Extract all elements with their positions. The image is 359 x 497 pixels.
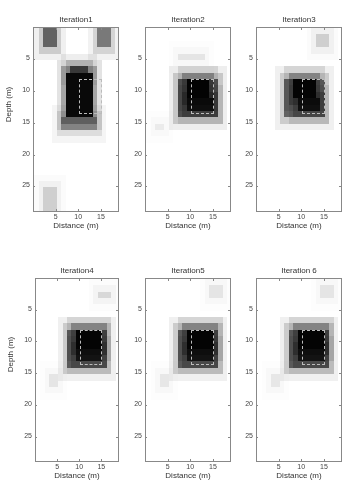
x-tick [168, 209, 169, 211]
y-tick [145, 437, 147, 438]
y-tick-label: 25 [128, 181, 142, 188]
x-tick-label: 15 [206, 463, 220, 470]
y-tick [35, 437, 37, 438]
intensity-cell [61, 117, 97, 130]
y-tick [33, 186, 35, 187]
x-axis-label: Distance (m) [145, 471, 231, 480]
x-tick-label: 10 [71, 213, 85, 220]
y-tick [339, 437, 341, 438]
target-outline [302, 79, 325, 114]
y-tick [228, 310, 230, 311]
intensity-cell [155, 124, 164, 130]
x-axis-label: Distance (m) [256, 221, 342, 230]
y-tick [228, 155, 230, 156]
x-tick [301, 28, 302, 30]
intensity-cell [209, 285, 223, 298]
x-tick [56, 28, 57, 30]
y-tick [116, 155, 118, 156]
y-tick-label: 10 [239, 336, 253, 343]
x-tick [301, 459, 302, 461]
y-tick [256, 373, 258, 374]
y-tick [116, 373, 118, 374]
y-tick [339, 91, 341, 92]
y-tick-label: 10 [128, 336, 142, 343]
panel-title: Iteration5 [145, 266, 231, 275]
y-tick [339, 310, 341, 311]
intensity-cell [49, 374, 58, 387]
y-tick-label: 15 [128, 118, 142, 125]
heatmap-plot [145, 27, 231, 212]
x-tick [279, 459, 280, 461]
y-tick-label: 10 [18, 336, 32, 343]
x-tick [324, 279, 325, 281]
x-tick [168, 459, 169, 461]
x-tick [190, 28, 191, 30]
y-tick [339, 123, 341, 124]
y-tick [256, 405, 258, 406]
y-tick-label: 10 [16, 86, 30, 93]
y-tick-label: 25 [128, 432, 142, 439]
panel-title: Iteration2 [145, 15, 231, 24]
y-tick [256, 123, 258, 124]
panel-title: Iteration1 [33, 15, 119, 24]
x-tick-label: 5 [50, 463, 64, 470]
x-tick [190, 209, 191, 211]
target-outline [79, 79, 102, 114]
x-tick-label: 15 [317, 463, 331, 470]
intensity-cell [97, 28, 111, 47]
panel-title: Iteration3 [256, 15, 342, 24]
y-tick [33, 155, 35, 156]
x-tick [78, 28, 79, 30]
x-tick-label: 5 [161, 463, 175, 470]
intensity-cell [271, 374, 280, 387]
y-tick-label: 20 [18, 400, 32, 407]
x-tick [324, 459, 325, 461]
y-tick [228, 405, 230, 406]
y-tick [228, 373, 230, 374]
y-tick [256, 91, 258, 92]
y-tick-label: 25 [239, 432, 253, 439]
y-tick [339, 373, 341, 374]
x-tick [78, 209, 79, 211]
x-tick [279, 28, 280, 30]
y-axis-label: Depth (m) [6, 330, 15, 380]
y-tick-label: 15 [239, 118, 253, 125]
y-tick-label: 5 [128, 305, 142, 312]
target-outline [191, 79, 214, 114]
y-tick-label: 15 [239, 368, 253, 375]
x-tick [213, 459, 214, 461]
x-tick-label: 5 [272, 213, 286, 220]
y-tick [116, 59, 118, 60]
y-tick-label: 15 [16, 118, 30, 125]
y-tick [116, 341, 118, 342]
x-tick-label: 5 [49, 213, 63, 220]
y-tick-label: 15 [18, 368, 32, 375]
intensity-cell [43, 187, 57, 212]
intensity-cell [178, 54, 205, 60]
heatmap-plot [256, 27, 342, 212]
y-tick [116, 91, 118, 92]
intensity-cell [98, 292, 111, 298]
y-tick-label: 5 [128, 54, 142, 61]
y-tick-label: 15 [128, 368, 142, 375]
y-tick [228, 341, 230, 342]
y-tick [228, 59, 230, 60]
intensity-cell [320, 285, 334, 298]
y-tick [339, 405, 341, 406]
y-tick [35, 341, 37, 342]
x-tick [101, 459, 102, 461]
x-tick [213, 209, 214, 211]
x-axis-label: Distance (m) [35, 471, 119, 480]
x-tick-label: 10 [183, 463, 197, 470]
y-tick [116, 186, 118, 187]
y-tick [339, 186, 341, 187]
y-tick [256, 155, 258, 156]
y-tick [145, 405, 147, 406]
target-outline [80, 330, 102, 365]
x-axis-label: Distance (m) [256, 471, 342, 480]
x-tick [101, 28, 102, 30]
x-tick [79, 459, 80, 461]
x-tick [301, 209, 302, 211]
x-tick-label: 15 [94, 463, 108, 470]
y-tick-label: 5 [18, 305, 32, 312]
